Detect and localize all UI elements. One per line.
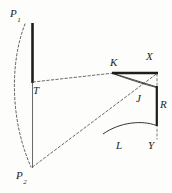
p2-to-x-dashed [33, 74, 158, 168]
geometry-figure: P1 P2 T K X J R L Y [0, 0, 172, 193]
k-arc-to-r [114, 74, 157, 88]
figure-canvas [0, 0, 172, 193]
point-label-j: J [136, 93, 141, 104]
l-arc [103, 123, 157, 134]
point-label-k: K [110, 57, 117, 68]
k-to-r-line [114, 74, 158, 88]
point-label-p2: P2 [16, 170, 26, 184]
point-label-r: R [160, 99, 167, 110]
left-dashed-arc [14, 24, 31, 167]
point-label-t: T [33, 85, 39, 96]
point-label-x: X [146, 51, 153, 62]
t-to-k-dashed [33, 73, 114, 82]
point-label-l: L [116, 140, 122, 151]
point-label-p1: P1 [10, 8, 20, 22]
point-label-y: Y [148, 140, 154, 151]
